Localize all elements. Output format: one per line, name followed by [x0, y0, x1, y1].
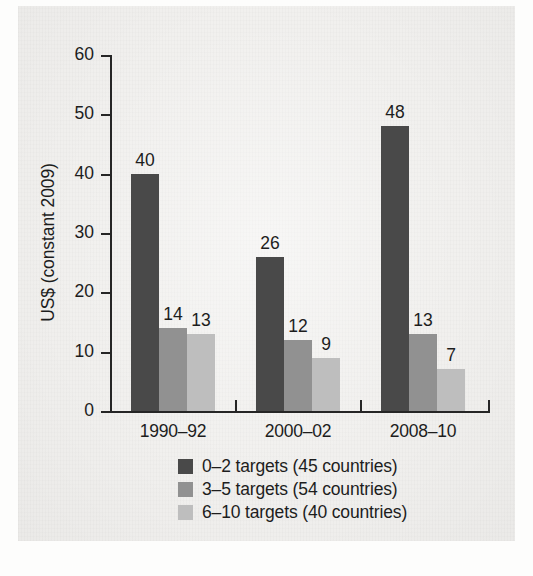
legend-swatch: [178, 505, 193, 520]
x-axis-group-separator-tick: [360, 400, 362, 411]
x-axis-tick-label: 2008–10: [390, 421, 457, 442]
x-axis-tick-label: 2000–02: [265, 421, 332, 442]
bar-value-label: 12: [288, 316, 307, 337]
legend-swatch: [178, 482, 193, 497]
y-axis-tick-mark: 40: [101, 174, 111, 176]
bar: 12: [284, 340, 312, 411]
x-axis-group-separator-tick: [235, 400, 237, 411]
y-axis-tick-label: 60: [75, 44, 94, 65]
y-axis-tick-mark: 60: [101, 55, 111, 57]
bar: 7: [437, 369, 465, 411]
y-axis-tick-label: 0: [84, 400, 94, 421]
bar-value-label: 40: [135, 150, 154, 171]
bar-value-label: 9: [321, 334, 331, 355]
y-axis-tick-mark: 20: [101, 292, 111, 294]
y-axis-tick-mark: 10: [101, 352, 111, 354]
bar-value-label: 13: [413, 310, 432, 331]
bar: 9: [312, 358, 340, 411]
bar: 13: [409, 334, 437, 411]
legend-label: 6–10 targets (40 countries): [202, 502, 407, 523]
bar: 13: [187, 334, 215, 411]
plot-area: 0102030405060 4014132612948137 1990–9220…: [110, 55, 490, 413]
bar-chart-figure: US$ (constant 2009) 0102030405060 401413…: [0, 0, 533, 576]
y-axis-tick-label: 10: [75, 341, 94, 362]
bar-value-label: 48: [385, 102, 404, 123]
bar: 40: [131, 174, 159, 411]
bar: 14: [159, 328, 187, 411]
y-axis-tick-label: 20: [75, 281, 94, 302]
y-axis-tick-mark: 50: [101, 114, 111, 116]
legend-item: 3–5 targets (54 countries): [178, 478, 407, 501]
x-axis-tick-label: 1990–92: [140, 421, 207, 442]
y-axis-tick-label: 40: [75, 163, 94, 184]
legend-label: 0–2 targets (45 countries): [202, 456, 398, 477]
bar: 26: [256, 257, 284, 411]
y-axis-tick-mark: 30: [101, 233, 111, 235]
y-axis-tick-label: 50: [75, 103, 94, 124]
bar-value-label: 14: [163, 304, 182, 325]
y-axis-title: US$ (constant 2009): [38, 133, 59, 353]
x-axis-end-tick: [488, 400, 490, 411]
legend-label: 3–5 targets (54 countries): [202, 479, 398, 500]
y-axis-tick-label: 30: [75, 222, 94, 243]
legend-item: 0–2 targets (45 countries): [178, 455, 407, 478]
y-axis-tick-mark: 0: [101, 411, 111, 413]
bar-value-label: 7: [446, 345, 456, 366]
bar-value-label: 13: [191, 310, 210, 331]
legend-item: 6–10 targets (40 countries): [178, 501, 407, 524]
chart-legend: 0–2 targets (45 countries)3–5 targets (5…: [178, 455, 407, 524]
x-axis-line: [110, 411, 490, 413]
bar: 48: [381, 126, 409, 411]
legend-swatch: [178, 459, 193, 474]
bar-value-label: 26: [260, 233, 279, 254]
